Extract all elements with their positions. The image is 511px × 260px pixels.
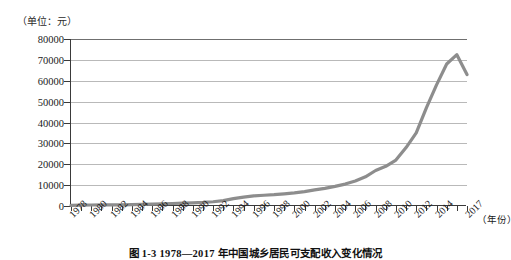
- y-axis-tick-label: 70000: [38, 54, 64, 65]
- y-axis-tick-label: 50000: [38, 96, 64, 107]
- y-axis-tick: [64, 81, 71, 82]
- plot-area: [70, 39, 466, 206]
- income-line-path: [71, 55, 467, 206]
- figure-caption: 图 1-3 1978—2017 年中国城乡居民可支配收入变化情况: [0, 245, 511, 260]
- y-axis-tick: [64, 102, 71, 103]
- x-axis-tick: [457, 206, 458, 211]
- y-axis-tick-label: 0: [59, 201, 64, 212]
- y-axis-tick-label: 30000: [38, 138, 64, 149]
- y-axis-tick-label: 80000: [38, 34, 64, 45]
- y-axis-tick: [64, 164, 71, 165]
- y-axis-tick: [64, 185, 71, 186]
- y-axis-tick: [64, 60, 71, 61]
- x-axis-unit-label: （年份）: [477, 212, 511, 226]
- y-axis-tick-label: 60000: [38, 75, 64, 86]
- y-axis-tick-label: 40000: [38, 117, 64, 128]
- income-line-series: [71, 39, 467, 206]
- y-axis-tick-label: 10000: [38, 180, 64, 191]
- y-axis-tick: [64, 143, 71, 144]
- y-axis-tick-label: 20000: [38, 159, 64, 170]
- y-axis-tick: [64, 123, 71, 124]
- y-axis-tick: [64, 39, 71, 40]
- y-axis-unit-label: （单位：元）: [17, 13, 77, 28]
